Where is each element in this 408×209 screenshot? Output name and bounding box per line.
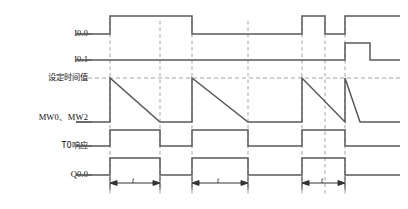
- waveform-i01: [76, 43, 400, 60]
- waveform-canvas: [0, 0, 408, 209]
- label-leader-lines: [76, 34, 92, 175]
- timing-diagram-figure: I0.0 I0.1 设定时间值 MW0、MW2 T0响应 Q0.0 t t t: [0, 0, 408, 209]
- duration-arrow-3: [302, 176, 345, 190]
- waveform-i00: [76, 16, 400, 34]
- waveform-t0-response: [76, 130, 400, 146]
- waveform-q00: [76, 158, 400, 175]
- duration-arrow-2: [192, 176, 248, 190]
- waveform-mw-sawtooth: [76, 78, 400, 122]
- duration-arrows: [110, 176, 345, 190]
- duration-arrow-1: [110, 176, 160, 190]
